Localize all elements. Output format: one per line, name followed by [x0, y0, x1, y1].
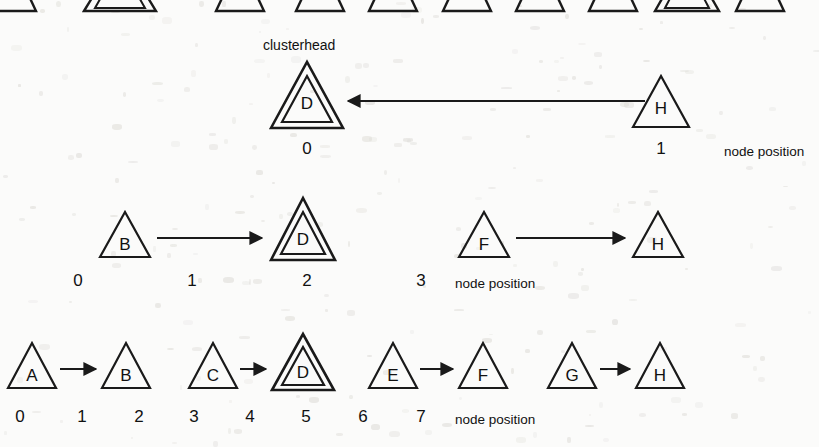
node-H-triangle	[636, 343, 684, 388]
position-label: 3	[184, 408, 204, 425]
node-C-triangle	[189, 343, 237, 388]
position-label: 1	[182, 272, 202, 289]
position-label: 2	[297, 272, 317, 289]
position-label: 0	[10, 408, 30, 425]
node-E-triangle	[369, 343, 417, 388]
axis-label-row-3: node position	[455, 413, 535, 427]
position-label: 0	[297, 140, 317, 157]
clusterhead-caption: clusterhead	[263, 38, 335, 52]
position-label: 4	[240, 408, 260, 425]
node-A-triangle	[8, 343, 56, 388]
node-G-triangle	[548, 343, 596, 388]
diagram-canvas: clusterhead D H 0 1 node position B D F …	[0, 0, 819, 447]
position-label: 0	[68, 272, 88, 289]
position-label: 1	[72, 408, 92, 425]
position-label: 2	[129, 408, 149, 425]
position-label: 3	[411, 272, 431, 289]
position-label: 6	[353, 408, 373, 425]
row-3-graphics	[0, 0, 819, 447]
node-D-outer-triangle	[272, 334, 334, 390]
axis-label-row-1: node position	[724, 145, 804, 159]
axis-label-row-2: node position	[455, 277, 535, 291]
node-D-inner-triangle	[282, 347, 324, 385]
position-label: 1	[651, 140, 671, 157]
position-label: 5	[296, 408, 316, 425]
node-B-triangle	[102, 343, 150, 388]
position-label: 7	[411, 408, 431, 425]
node-F-triangle	[459, 343, 507, 388]
